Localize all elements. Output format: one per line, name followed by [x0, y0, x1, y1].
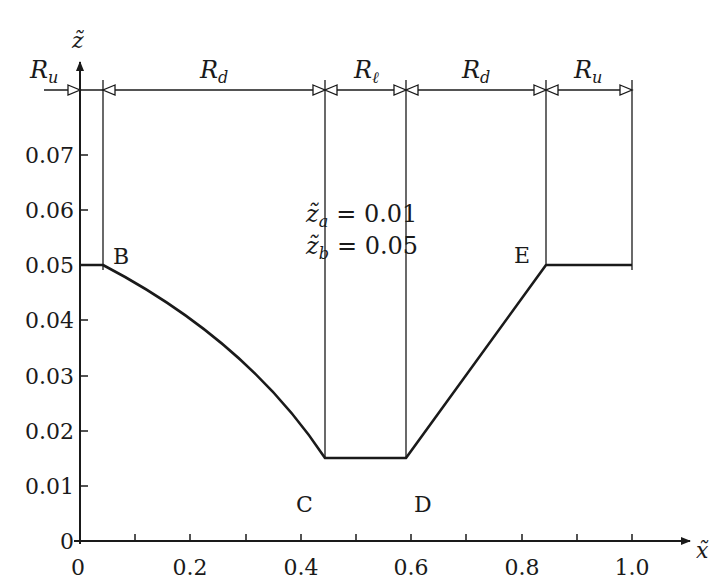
y-axis-label: z̃	[71, 28, 84, 53]
svg-text:0.6: 0.6	[394, 555, 429, 580]
label-Rd-right: Rd	[461, 56, 490, 87]
parameter-annotations: z̃a= 0.01 z̃b= 0.05	[305, 200, 418, 263]
point-labels: B C D E	[113, 243, 530, 517]
svg-text:0.05: 0.05	[25, 253, 74, 278]
region-labels: Ru Rd Rℓ Rd Ru	[29, 56, 602, 87]
label-Ru-right: Ru	[573, 56, 602, 87]
svg-text:0.4: 0.4	[284, 555, 319, 580]
svg-text:E: E	[514, 243, 530, 268]
svg-text:1.0: 1.0	[615, 555, 650, 580]
profile-diagram: 0 0.01 0.02 0.03 0.04 0.05 0.06 0.07 0 0…	[0, 0, 715, 587]
svg-text:0.07: 0.07	[25, 143, 74, 168]
x-tick-labels: 0 0.2 0.4 0.6 0.8 1.0	[71, 555, 650, 580]
svg-text:0.2: 0.2	[173, 555, 208, 580]
region-boundaries	[103, 80, 632, 458]
x-axis-label: x̃	[696, 538, 709, 563]
svg-text:B: B	[113, 244, 129, 269]
svg-text:0: 0	[71, 555, 85, 580]
zb-annotation: z̃b= 0.05	[305, 232, 418, 263]
label-Rl: Rℓ	[353, 56, 379, 87]
label-Ru-left: Ru	[29, 56, 58, 87]
za-annotation: z̃a= 0.01	[305, 200, 417, 231]
dimension-line	[44, 85, 632, 95]
y-tick-labels: 0 0.01 0.02 0.03 0.04 0.05 0.06 0.07	[25, 143, 74, 554]
svg-text:0.01: 0.01	[25, 474, 74, 499]
x-ticks	[135, 534, 632, 541]
label-Rd-left: Rd	[199, 56, 228, 87]
svg-text:0.06: 0.06	[25, 198, 74, 223]
svg-text:0.03: 0.03	[25, 364, 74, 389]
svg-text:C: C	[296, 492, 313, 517]
svg-text:D: D	[414, 492, 432, 517]
svg-text:0.8: 0.8	[505, 555, 540, 580]
y-ticks	[80, 155, 88, 486]
svg-text:0.02: 0.02	[25, 419, 74, 444]
svg-text:0.04: 0.04	[25, 308, 74, 333]
profile-curve	[80, 265, 632, 458]
svg-text:0: 0	[60, 529, 74, 554]
